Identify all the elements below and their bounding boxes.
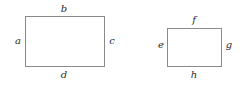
right-rectangle-label-top: f (188, 15, 200, 25)
right-rectangle-label-right: g (224, 40, 234, 50)
right-rectangle-label-bottom: h (188, 70, 200, 80)
right-rectangle-label-left: e (156, 40, 166, 50)
geometry-diagram: a b c d e f g h (0, 0, 252, 88)
right-rectangle-figure: e f g h (0, 0, 252, 88)
right-rectangle-shape (167, 28, 222, 67)
